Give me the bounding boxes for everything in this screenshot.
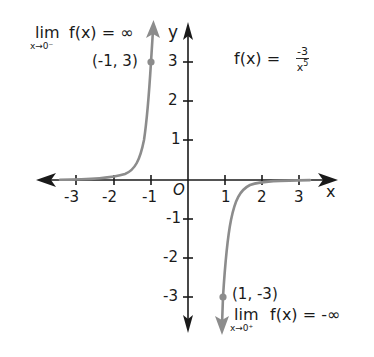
point-left-label: (-1, 3) [92, 54, 138, 69]
x-tick-label: -3 [64, 190, 79, 205]
function-lhs: f(x) = [234, 51, 280, 67]
y-tick-label: 2 [168, 93, 178, 108]
y-tick-label: 1 [171, 132, 181, 147]
y-tick-label: 3 [168, 54, 178, 69]
graph-canvas [0, 0, 374, 357]
limit-right-lim: lim [234, 307, 258, 323]
limit-left-sub: x→0⁻ [30, 42, 53, 51]
x-tick-label: 1 [221, 190, 231, 205]
y-axis-label: y [168, 24, 178, 41]
x-tick-label: 2 [257, 190, 267, 205]
function-denominator: x5 [297, 59, 309, 73]
limit-left-lim: lim [35, 25, 59, 41]
y-tick-label: -3 [163, 289, 178, 304]
x-tick-label: -1 [142, 190, 157, 205]
limit-left-expr: f(x) = ∞ [69, 25, 134, 41]
limit-right-expr: f(x) = -∞ [270, 307, 340, 323]
y-tick-label: -2 [163, 250, 178, 265]
point-right-dot [219, 293, 226, 300]
limit-right-sub: x→0⁺ [230, 324, 253, 333]
x-tick-label: 3 [294, 190, 304, 205]
point-left-dot [147, 58, 154, 65]
x-tick-label: -2 [102, 190, 117, 205]
y-tick-label: -1 [166, 211, 181, 226]
function-numerator: -3 [296, 46, 309, 59]
function-exponent: 5 [303, 59, 308, 68]
point-right-label: (1, -3) [232, 287, 278, 302]
function-fraction: -3 x5 [296, 46, 309, 73]
function-curve [60, 30, 310, 325]
x-axis-label: x [326, 184, 335, 200]
y-axis [183, 22, 193, 333]
origin-label: O [173, 183, 185, 198]
